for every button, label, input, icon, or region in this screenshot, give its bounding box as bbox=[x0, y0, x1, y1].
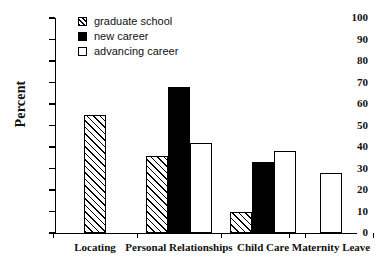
bar bbox=[146, 156, 168, 233]
chart-legend: graduate schoolnew careeradvancing caree… bbox=[78, 16, 178, 57]
x-axis-label-maternity-leave: Maternity Leave bbox=[271, 241, 378, 253]
x-axis-tick-mark bbox=[305, 233, 306, 238]
x-axis-tick-mark bbox=[373, 233, 374, 238]
bar bbox=[252, 162, 274, 233]
bar bbox=[320, 173, 342, 233]
x-axis-tick-mark bbox=[137, 233, 138, 238]
legend-label: advancing career bbox=[94, 46, 178, 57]
legend-item: new career bbox=[78, 31, 178, 42]
bar bbox=[230, 212, 252, 234]
x-axis-tick-mark bbox=[221, 233, 222, 238]
bar bbox=[274, 151, 296, 233]
bar bbox=[168, 87, 190, 233]
bar bbox=[84, 115, 106, 233]
x-axis-tick-mark bbox=[289, 233, 290, 238]
legend-label: graduate school bbox=[94, 16, 172, 27]
legend-swatch-solid-icon bbox=[78, 32, 87, 41]
bar bbox=[190, 143, 212, 233]
legend-item: advancing career bbox=[78, 46, 178, 57]
legend-swatch-open-icon bbox=[78, 47, 87, 56]
legend-label: new career bbox=[94, 31, 148, 42]
x-axis-tick-mark bbox=[53, 233, 54, 238]
y-axis-title: Percent bbox=[13, 59, 29, 149]
legend-swatch-hatch-icon bbox=[78, 17, 87, 26]
x-axis-line bbox=[55, 233, 357, 234]
legend-item: graduate school bbox=[78, 16, 178, 27]
